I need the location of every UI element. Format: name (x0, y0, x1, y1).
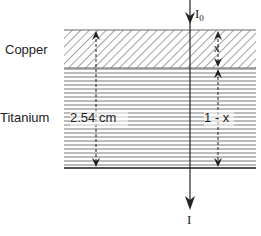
absorption-diagram: Copper Titanium 2.54 cm x 1 - x I0 I (0, 0, 261, 236)
copper-layer (64, 30, 256, 68)
incident-intensity-subscript: 0 (199, 13, 204, 23)
titanium-label: Titanium (0, 110, 49, 125)
total-thickness-label: 2.54 cm (70, 110, 116, 125)
incident-intensity-label: I0 (195, 6, 204, 23)
copper-thickness-label: x (214, 42, 220, 54)
transmitted-intensity-label: I (187, 212, 191, 227)
copper-label: Copper (5, 42, 48, 57)
titanium-thickness-label: 1 - x (204, 110, 230, 125)
